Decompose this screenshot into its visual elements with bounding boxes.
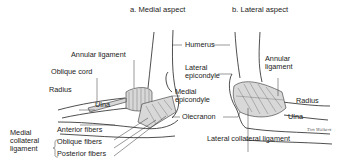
title-medial-aspect: a. Medial aspect [130, 6, 185, 14]
label-ulna-medial: Ulna [95, 101, 110, 109]
label-humerus: Humerus [185, 41, 215, 49]
label-posterior-fibers: Posterior fibers [57, 150, 106, 158]
label-lateral-epicondyle-line2: epicondyle [185, 72, 220, 80]
label-ulna-lateral: Ulna [288, 113, 303, 121]
label-annular-ligament-lateral-line2: ligament [265, 63, 293, 71]
artist-signature: Tim Walters [307, 127, 331, 132]
label-oblique-cord: Oblique cord [51, 68, 92, 76]
elbow-ligament-illustration [0, 0, 348, 164]
label-annular-ligament-medial: Annular ligament [71, 51, 126, 59]
title-lateral-aspect: b. Lateral aspect [232, 6, 288, 14]
label-mcl-line3: ligament [10, 145, 38, 153]
label-radius-medial: Radius [49, 86, 72, 94]
label-lateral-collateral-ligament: Lateral collateral ligament [207, 135, 290, 143]
label-olecranon: Olecranon [182, 113, 216, 121]
label-oblique-fibers: Oblique fibers [57, 138, 102, 146]
label-radius-lateral: Radius [296, 97, 319, 105]
label-medial-epicondyle-line2: epicondyle [175, 96, 210, 104]
label-anterior-fibers: Anterior fibers [57, 126, 102, 134]
